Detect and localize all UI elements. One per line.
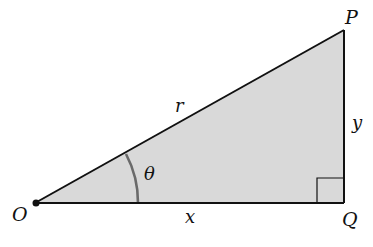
vertex-label-q: Q bbox=[342, 208, 358, 230]
vertex-label-o: O bbox=[12, 203, 28, 225]
side-label-r: r bbox=[175, 95, 185, 116]
angle-label-theta: θ bbox=[144, 163, 155, 184]
vertex-label-p: P bbox=[344, 6, 359, 28]
triangle-diagram: O P Q r y x θ bbox=[0, 0, 373, 247]
side-label-y: y bbox=[351, 112, 363, 133]
side-label-x: x bbox=[185, 206, 195, 227]
origin-point bbox=[33, 200, 40, 207]
